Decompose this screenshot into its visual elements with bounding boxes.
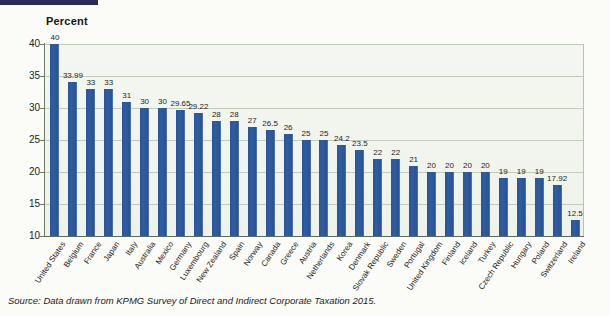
y-axis-tick-label: 35 bbox=[6, 71, 40, 81]
x-axis-category-label: Ireland bbox=[566, 240, 587, 265]
gridline bbox=[45, 44, 583, 45]
y-axis-ticks: 10152025303540 bbox=[0, 0, 40, 236]
source-text: Data drawn from KPMG Survey of Direct an… bbox=[41, 295, 376, 306]
bar-value-label: 17.92 bbox=[545, 175, 569, 183]
bar[interactable] bbox=[104, 89, 113, 236]
bar[interactable] bbox=[481, 172, 490, 236]
chart-page: Percent 10152025303540 4033.993333313030… bbox=[0, 0, 610, 316]
bar[interactable] bbox=[319, 140, 328, 236]
bar[interactable] bbox=[391, 159, 400, 236]
x-axis-category-labels: United StatesBelgiumFranceJapanItalyAust… bbox=[45, 238, 585, 296]
bar[interactable] bbox=[499, 178, 508, 236]
y-axis-tick-label: 10 bbox=[6, 231, 40, 241]
x-axis-category-label: Italy bbox=[123, 240, 139, 257]
bar[interactable] bbox=[158, 108, 167, 236]
source-note: Source: Data drawn from KPMG Survey of D… bbox=[8, 295, 376, 306]
bar[interactable] bbox=[284, 134, 293, 236]
bar[interactable] bbox=[68, 82, 77, 236]
y-axis-tick-label: 15 bbox=[6, 199, 40, 209]
bar-value-label: 40 bbox=[43, 34, 67, 42]
bar[interactable] bbox=[140, 108, 149, 236]
bar[interactable] bbox=[194, 113, 203, 236]
bar[interactable] bbox=[248, 127, 257, 236]
bar[interactable] bbox=[373, 159, 382, 236]
bar[interactable] bbox=[535, 178, 544, 236]
y-axis-tick-label: 20 bbox=[6, 167, 40, 177]
y-axis-tick-label: 25 bbox=[6, 135, 40, 145]
source-prefix: Source: bbox=[8, 295, 41, 306]
bar-value-label: 33 bbox=[97, 79, 121, 87]
bar[interactable] bbox=[50, 44, 59, 236]
bar[interactable] bbox=[212, 121, 221, 236]
bar[interactable] bbox=[409, 166, 418, 236]
bar[interactable] bbox=[266, 130, 275, 236]
bar[interactable] bbox=[571, 220, 580, 236]
x-axis-category-label: Japan bbox=[102, 240, 122, 263]
y-axis-tick-label: 40 bbox=[6, 39, 40, 49]
bar[interactable] bbox=[427, 172, 436, 236]
bar-value-label: 23.5 bbox=[348, 140, 372, 148]
bar[interactable] bbox=[122, 102, 131, 236]
bar[interactable] bbox=[230, 121, 239, 236]
bar[interactable] bbox=[176, 110, 185, 236]
bar[interactable] bbox=[553, 185, 562, 236]
plot-area: 4033.99333331303029.6529.2228282726.5262… bbox=[45, 44, 583, 236]
bar[interactable] bbox=[302, 140, 311, 236]
bar[interactable] bbox=[86, 89, 95, 236]
bar-value-label: 12.5 bbox=[563, 210, 587, 218]
bar[interactable] bbox=[463, 172, 472, 236]
y-axis-tick-label: 30 bbox=[6, 103, 40, 113]
bar-value-label: 29.22 bbox=[186, 103, 210, 111]
x-axis-line bbox=[44, 236, 584, 237]
page-title: Percent bbox=[46, 15, 88, 27]
bar[interactable] bbox=[337, 145, 346, 236]
bar[interactable] bbox=[445, 172, 454, 236]
bar[interactable] bbox=[517, 178, 526, 236]
bar[interactable] bbox=[355, 150, 364, 236]
gridline bbox=[45, 76, 583, 77]
